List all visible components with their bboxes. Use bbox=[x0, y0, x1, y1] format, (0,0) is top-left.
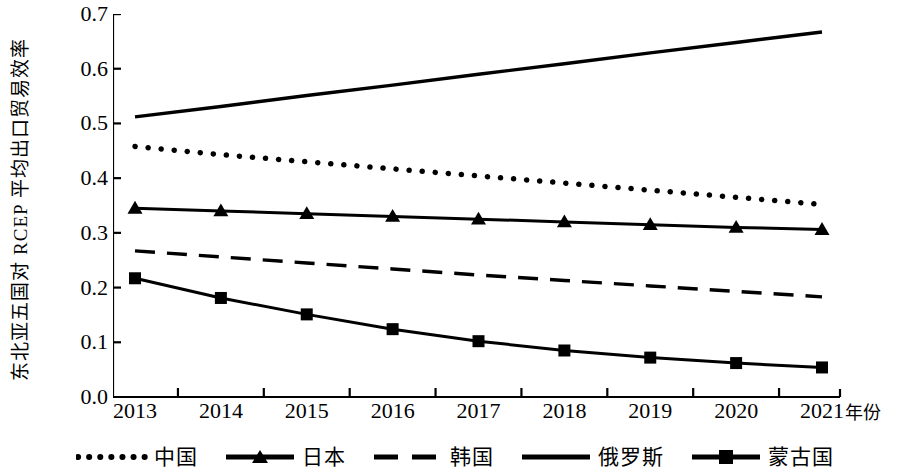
y-axis-tick-labels: 0.70.60.50.40.30.20.10.0 bbox=[52, 0, 108, 420]
legend-item-4[interactable]: 蒙古国 bbox=[690, 445, 834, 469]
y-axis-tick-label: 0.2 bbox=[56, 277, 108, 299]
legend-label: 韩国 bbox=[450, 445, 494, 469]
dotted-line-icon bbox=[76, 448, 148, 466]
y-axis-title: 东北亚五国对 RCEP 平均出口贸易效率 bbox=[5, 10, 32, 410]
dashed-line-icon bbox=[372, 448, 444, 466]
solid-line-triangle-marker-icon bbox=[224, 448, 296, 466]
y-axis-tick-label: 0.1 bbox=[56, 331, 108, 353]
x-axis-tick-labels: 201320142015201620172018201920202021 bbox=[113, 398, 840, 428]
series-marker-4 bbox=[129, 272, 141, 284]
solid-line-square-marker-icon bbox=[690, 448, 762, 466]
y-axis-tick-label: 0.7 bbox=[56, 3, 108, 25]
chart-legend: 中国日本韩国俄罗斯蒙古国 bbox=[0, 438, 910, 476]
x-axis-tick-label: 2017 bbox=[439, 398, 519, 424]
x-axis-tick-label: 2015 bbox=[267, 398, 347, 424]
series-marker-4 bbox=[816, 361, 828, 373]
x-axis-tick-label: 2020 bbox=[696, 398, 776, 424]
y-axis-tick-label: 0.3 bbox=[56, 222, 108, 244]
x-axis-tick-label: 2016 bbox=[353, 398, 433, 424]
plot-svg bbox=[113, 14, 848, 401]
legend-item-1[interactable]: 日本 bbox=[224, 445, 346, 469]
legend-item-0[interactable]: 中国 bbox=[76, 445, 198, 469]
series-line-0 bbox=[135, 146, 822, 204]
y-axis-tick-label: 0.4 bbox=[56, 167, 108, 189]
legend-label: 蒙古国 bbox=[768, 445, 834, 469]
legend-label: 俄罗斯 bbox=[598, 445, 664, 469]
series-marker-4 bbox=[730, 357, 742, 369]
legend-item-2[interactable]: 韩国 bbox=[372, 445, 494, 469]
x-axis-tick-label: 2019 bbox=[610, 398, 690, 424]
line-chart: 东北亚五国对 RCEP 平均出口贸易效率 0.70.60.50.40.30.20… bbox=[0, 0, 910, 476]
y-axis-tick-label: 0.6 bbox=[56, 58, 108, 80]
legend-label: 中国 bbox=[154, 445, 198, 469]
series-marker-4 bbox=[473, 335, 485, 347]
series-marker-4 bbox=[644, 352, 656, 364]
solid-line-icon bbox=[520, 448, 592, 466]
y-axis-tick-label: 0.5 bbox=[56, 112, 108, 134]
legend-item-3[interactable]: 俄罗斯 bbox=[520, 445, 664, 469]
x-axis-tick-label: 2013 bbox=[95, 398, 175, 424]
legend-label: 日本 bbox=[302, 445, 346, 469]
series-marker-4 bbox=[387, 323, 399, 335]
series-line-2 bbox=[135, 251, 822, 297]
series-marker-4 bbox=[301, 308, 313, 320]
series-marker-4 bbox=[558, 344, 570, 356]
series-marker-4 bbox=[215, 292, 227, 304]
plot-area bbox=[113, 14, 840, 397]
x-axis-title: 年份 bbox=[845, 400, 881, 426]
x-axis-tick-label: 2014 bbox=[181, 398, 261, 424]
x-axis-tick-label: 2018 bbox=[524, 398, 604, 424]
series-line-3 bbox=[135, 32, 822, 117]
